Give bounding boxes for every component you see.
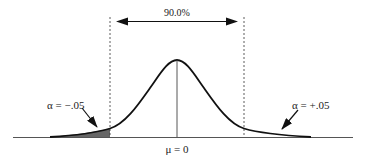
right-tail-alpha-label: α = +.05 [292, 100, 329, 111]
interval-arrow-left-head-icon [116, 18, 128, 26]
normal-distribution-diagram: 90.0% α = −.05 α = +.05 μ = 0 [0, 0, 369, 160]
interval-arrow-right-head-icon [226, 18, 238, 26]
mean-label: μ = 0 [165, 144, 188, 155]
interval-percent-label: 90.0% [164, 8, 190, 18]
right-tail-pointer-arrow [282, 110, 298, 129]
distribution-graphic [0, 0, 369, 160]
normal-curve [50, 60, 311, 137]
left-tail-alpha-label: α = −.05 [47, 100, 84, 111]
